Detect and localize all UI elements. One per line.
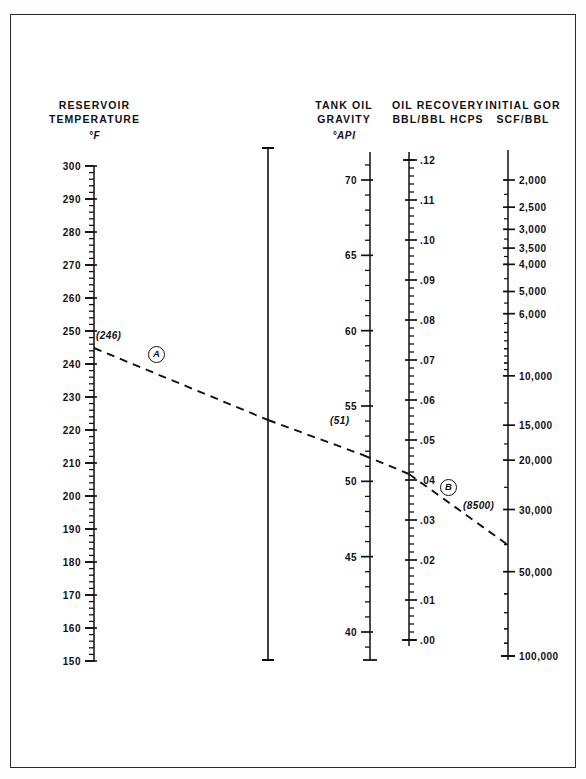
- temperature-tick-9: 210: [63, 458, 81, 469]
- recovery-tick-2: .10: [420, 235, 435, 246]
- annotation-gravity-value: (51): [330, 415, 349, 426]
- temperature-tick-10: 200: [63, 491, 81, 502]
- gravity-tick-0: 70: [345, 175, 357, 186]
- recovery-tick-5: .07: [420, 355, 435, 366]
- temperature-tick-4: 260: [63, 293, 81, 304]
- gor-tick-3: 3,500: [519, 243, 547, 254]
- temperature-tick-12: 180: [63, 557, 81, 568]
- temperature-tick-0: 300: [63, 161, 81, 172]
- temperature-tick-1: 290: [63, 194, 81, 205]
- gor-tick-6: 6,000: [519, 308, 547, 319]
- recovery-tick-11: .01: [420, 595, 435, 606]
- recovery-tick-8: .04: [420, 475, 435, 486]
- recovery-tick-6: .06: [420, 395, 435, 406]
- temperature-tick-13: 170: [63, 590, 81, 601]
- recovery-axis-line: [402, 152, 417, 646]
- recovery-tick-3: .09: [420, 275, 435, 286]
- gravity-tick-6: 40: [345, 627, 357, 638]
- temperature-axis-line: [85, 166, 97, 661]
- gravity-tick-2: 60: [345, 325, 357, 336]
- temperature-tick-14: 160: [63, 623, 81, 634]
- gor-tick-12: 100,000: [519, 651, 559, 662]
- recovery-tick-10: .02: [420, 555, 435, 566]
- recovery-tick-1: .11: [420, 195, 435, 206]
- temperature-tick-6: 240: [63, 359, 81, 370]
- key-badge-b: B: [440, 479, 457, 496]
- annotation-gor-value: (8500): [463, 500, 494, 511]
- temperature-tick-15: 150: [63, 656, 81, 667]
- gor-tick-7: 10,000: [519, 370, 553, 381]
- gor-tick-11: 50,000: [519, 566, 553, 577]
- gor-tick-5: 5,000: [519, 286, 547, 297]
- annotation-temperature-value: (246): [96, 330, 121, 341]
- temperature-tick-11: 190: [63, 524, 81, 535]
- recovery-tick-12: .00: [420, 635, 435, 646]
- gor-tick-9: 20,000: [519, 455, 553, 466]
- gravity-tick-5: 45: [345, 551, 357, 562]
- temperature-tick-2: 280: [63, 227, 81, 238]
- nomograph-canvas: [0, 0, 586, 779]
- pivot-axis-line: [262, 148, 274, 660]
- temperature-tick-7: 230: [63, 392, 81, 403]
- temperature-tick-5: 250: [63, 326, 81, 337]
- construction-lines: [94, 348, 508, 545]
- recovery-tick-9: .03: [420, 515, 435, 526]
- gor-tick-0: 2,000: [519, 175, 547, 186]
- recovery-tick-0: .12: [420, 155, 435, 166]
- gravity-tick-1: 65: [345, 250, 357, 261]
- temperature-tick-3: 270: [63, 260, 81, 271]
- gravity-axis-line: [361, 152, 377, 660]
- gravity-tick-3: 55: [345, 401, 357, 412]
- gor-tick-8: 15,000: [519, 420, 553, 431]
- gor-tick-10: 30,000: [519, 504, 553, 515]
- gor-tick-4: 4,000: [519, 259, 547, 270]
- key-badge-a: A: [148, 346, 165, 363]
- gor-tick-2: 3,000: [519, 224, 547, 235]
- gravity-tick-4: 50: [345, 476, 357, 487]
- temperature-tick-8: 220: [63, 425, 81, 436]
- recovery-tick-7: .05: [420, 435, 435, 446]
- recovery-tick-4: .08: [420, 315, 435, 326]
- nomograph-figure: RESERVOIR TEMPERATURE °F TANK OIL GRAVIT…: [0, 0, 586, 779]
- gor-tick-1: 2,500: [519, 202, 547, 213]
- gor-axis-line: [501, 150, 515, 660]
